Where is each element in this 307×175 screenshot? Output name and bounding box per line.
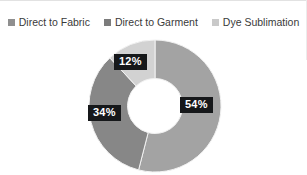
legend-item-label: Direct to Fabric: [19, 16, 90, 28]
legend-swatch-icon: [104, 19, 111, 26]
slice-value-label: 54%: [180, 97, 213, 113]
panel-right-border: [306, 0, 307, 60]
legend-swatch-icon: [8, 19, 15, 26]
legend-item-dye-sublimation[interactable]: Dye Sublimation: [212, 16, 299, 28]
legend-item-direct-to-fabric[interactable]: Direct to Fabric: [8, 16, 90, 28]
chart-legend: Direct to Fabric Direct to Garment Dye S…: [0, 14, 307, 30]
chart-panel: Direct to Fabric Direct to Garment Dye S…: [0, 0, 307, 175]
panel-top-border: [0, 0, 307, 1]
legend-item-label: Direct to Garment: [115, 16, 198, 28]
legend-swatch-icon: [212, 19, 219, 26]
slice-value-label: 12%: [114, 54, 147, 70]
slice-value-label: 34%: [88, 105, 121, 121]
legend-item-direct-to-garment[interactable]: Direct to Garment: [104, 16, 198, 28]
legend-item-label: Dye Sublimation: [223, 16, 299, 28]
